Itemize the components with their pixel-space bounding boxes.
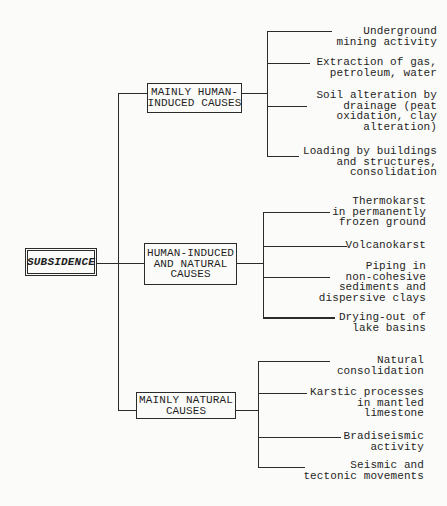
leaf-label: Volcanokarst [346, 240, 426, 251]
leaf-label: Soil alteration by drainage (peat oxidat… [316, 90, 437, 132]
category-box-human-induced-and-natural: HUMAN-INDUCED AND NATURAL CAUSES [144, 243, 237, 285]
leaf-label: Loading by buildings and structures, con… [303, 146, 437, 178]
category-label: MAINLY NATURAL CAUSES [139, 395, 233, 416]
leaf-label: Karstic processes in mantled limestone [310, 387, 424, 419]
leaf-label: Thermokarst in permanently frozen ground [332, 196, 426, 228]
category-box-mainly-human-induced: MAINLY HUMAN- INDUCED CAUSES [147, 83, 242, 113]
leaf-label: Underground mining activity [336, 26, 437, 47]
leaf-label: Piping in non-cohesive sediments and dis… [319, 261, 426, 303]
leaf-label: Natural consolidation [337, 355, 424, 376]
root-node-subsidence: SUBSIDENCE [25, 248, 97, 276]
root-label: SUBSIDENCE [27, 256, 95, 268]
category-box-mainly-natural: MAINLY NATURAL CAUSES [136, 392, 236, 419]
category-label: HUMAN-INDUCED AND NATURAL CAUSES [147, 248, 234, 280]
root-node-inner-border: SUBSIDENCE [27, 250, 95, 274]
leaf-label: Seismic and tectonic movements [303, 460, 424, 481]
category-label: MAINLY HUMAN- INDUCED CAUSES [148, 87, 242, 108]
leaf-label: Drying-out of lake basins [339, 312, 426, 333]
subsidence-causes-diagram: SUBSIDENCE MAINLY HUMAN- INDUCED CAUSES … [0, 0, 447, 506]
leaf-label: Extraction of gas, petroleum, water [316, 57, 437, 78]
leaf-label: Bradiseismic activity [344, 431, 424, 452]
